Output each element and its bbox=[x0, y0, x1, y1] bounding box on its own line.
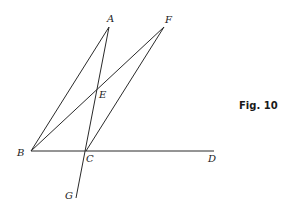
label-point-C: C bbox=[86, 153, 94, 164]
label-point-E: E bbox=[98, 89, 107, 100]
label-point-B: B bbox=[16, 147, 24, 158]
figure-caption: Fig. 10 bbox=[239, 100, 278, 111]
label-point-G: G bbox=[65, 190, 73, 201]
label-point-A: A bbox=[106, 13, 114, 24]
label-point-D: D bbox=[207, 153, 216, 164]
label-point-F: F bbox=[164, 14, 173, 25]
